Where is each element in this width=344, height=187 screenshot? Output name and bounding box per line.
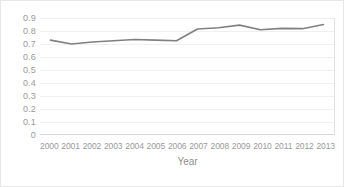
line-chart: 00.10.20.30.40.50.60.70.80.9 20002001200… [0,0,344,187]
x-tick-label: 2005 [147,141,166,151]
x-tick-label: 2004 [125,141,144,151]
x-tick-label: 2012 [295,141,314,151]
y-tick-label: 0.7 [23,39,36,49]
y-tick-label: 0.3 [23,91,36,101]
x-tick-label: 2010 [253,141,272,151]
x-tick-label: 2000 [40,141,59,151]
y-tick-label: 0.8 [23,26,36,36]
series-line [40,18,334,135]
x-axis: 2000200120022003200420052006200720082009… [40,141,335,153]
y-tick-label: 0.4 [23,78,36,88]
y-tick-label: 0.6 [23,52,36,62]
x-tick-label: 2011 [274,141,292,151]
x-tick-label: 2008 [211,141,230,151]
x-tick-label: 2009 [232,141,251,151]
x-tick-label: 2006 [168,141,187,151]
x-axis-title: Year [40,156,335,167]
plot-area [40,18,335,135]
y-axis: 00.10.20.30.40.50.60.70.80.9 [1,18,36,135]
y-tick-label: 0.1 [23,117,36,127]
x-tick-label: 2001 [61,141,80,151]
x-tick-label: 2003 [104,141,123,151]
y-tick-label: 0 [31,130,36,140]
x-tick-label: 2013 [316,141,335,151]
x-tick-label: 2007 [189,141,208,151]
x-tick-label: 2002 [83,141,102,151]
y-tick-label: 0.2 [23,104,36,114]
series-polyline [51,25,324,45]
y-tick-label: 0.9 [23,13,36,23]
y-tick-label: 0.5 [23,65,36,75]
